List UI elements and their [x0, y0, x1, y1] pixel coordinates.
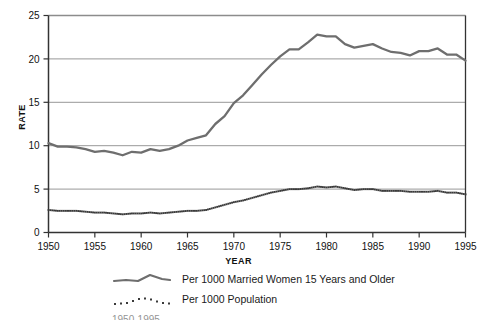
legend-swatch-dotted-line	[112, 291, 172, 307]
series-1-dots	[48, 186, 467, 216]
gridlines-group	[49, 16, 466, 190]
legend-item-population: Per 1000 Population	[0, 290, 477, 308]
legend-swatch-solid-line	[112, 271, 172, 287]
ytick-label-0: 0	[34, 227, 40, 238]
xtick-label-1980: 1980	[315, 241, 338, 252]
xtick-label-1950: 1950	[37, 241, 60, 252]
ytick-label-25: 25	[28, 10, 40, 21]
ytick-label-5: 5	[34, 184, 40, 195]
ytick-label-15: 15	[28, 97, 40, 108]
ytick-label-20: 20	[28, 54, 40, 65]
xtick-label-1975: 1975	[269, 241, 292, 252]
xtick-label-1955: 1955	[84, 241, 107, 252]
legend-item-married: Per 1000 Married Women 15 Years and Olde…	[0, 268, 477, 290]
chart-legend: Per 1000 Married Women 15 Years and Olde…	[0, 268, 477, 308]
data-series-group	[48, 35, 467, 216]
ytick-label-10: 10	[28, 140, 40, 151]
xtick-label-1960: 1960	[130, 241, 153, 252]
xtick-label-1965: 1965	[176, 241, 199, 252]
xtick-label-1990: 1990	[408, 241, 431, 252]
x-axis-tick-labels: 1950195519601965197019751980198519901995	[37, 241, 477, 252]
chart-plot-area: 0510152025 19501955196019651970197519801…	[0, 0, 477, 260]
y-axis-title: RATE	[17, 97, 27, 137]
series-0-line	[49, 35, 466, 156]
legend-label-population: Per 1000 Population	[182, 293, 277, 305]
plot-frame	[49, 16, 466, 233]
figure-caption: 1950-1995	[112, 314, 160, 320]
xtick-label-1970: 1970	[223, 241, 246, 252]
xtick-label-1985: 1985	[362, 241, 385, 252]
x-axis-title: YEAR	[0, 256, 477, 266]
y-axis-tick-labels: 0510152025	[28, 10, 40, 238]
chart-figure: 0510152025 19501955196019651970197519801…	[0, 0, 477, 320]
axis-ticks	[44, 16, 466, 238]
legend-label-married: Per 1000 Married Women 15 Years and Olde…	[182, 273, 395, 285]
xtick-label-1995: 1995	[454, 241, 477, 252]
